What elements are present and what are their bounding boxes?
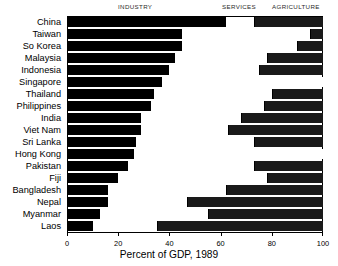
category-label: Laos — [41, 221, 61, 231]
bar-segment-agriculture — [157, 221, 323, 231]
bar-segment-industry — [67, 197, 108, 207]
category-label: India — [41, 113, 61, 123]
bar-row — [67, 65, 323, 75]
bar-row — [67, 41, 323, 51]
segment-divider — [310, 29, 311, 39]
bar-row — [67, 89, 323, 99]
stacked-bar — [67, 65, 323, 75]
category-label: China — [37, 17, 61, 27]
stacked-bar — [67, 209, 323, 219]
stacked-bar — [67, 113, 323, 123]
bar-segment-industry — [67, 113, 141, 123]
bar-segment-services — [136, 137, 254, 147]
bar-segment-services — [162, 77, 323, 87]
bar-segment-industry — [67, 125, 141, 135]
bar-rows — [67, 16, 323, 232]
category-label: Philippines — [17, 101, 61, 111]
category-label: Pakistan — [26, 161, 61, 171]
category-axis-labels: ChinaTaiwanSo KoreaMalaysiaIndonesiaSing… — [0, 16, 65, 232]
bar-segment-industry — [67, 65, 169, 75]
bar-row — [67, 29, 323, 39]
bar-segment-agriculture — [259, 65, 323, 75]
category-label: Thailand — [26, 89, 61, 99]
bar-segment-industry — [67, 173, 118, 183]
bar-segment-services — [134, 149, 323, 159]
bar-segment-agriculture — [297, 41, 323, 51]
bar-segment-industry — [67, 41, 182, 51]
bar-segment-services — [108, 197, 187, 207]
x-axis-tick — [118, 232, 119, 236]
chart-legend: INDUSTRY SERVICES AGRICULTURE — [0, 0, 338, 14]
segment-divider — [264, 101, 265, 111]
gdp-composition-chart: INDUSTRY SERVICES AGRICULTURE ChinaTaiwa… — [0, 0, 338, 266]
bar-segment-services — [182, 41, 297, 51]
bar-segment-industry — [67, 29, 182, 39]
bar-segment-agriculture — [228, 125, 323, 135]
stacked-bar — [67, 77, 323, 87]
bar-row — [67, 161, 323, 171]
bar-segment-industry — [67, 209, 100, 219]
bar-segment-agriculture — [267, 53, 323, 63]
bar-segment-agriculture — [310, 29, 323, 39]
category-label: So Korea — [23, 41, 61, 51]
segment-divider — [241, 113, 242, 123]
bar-row — [67, 113, 323, 123]
stacked-bar — [67, 185, 323, 195]
bar-segment-industry — [67, 53, 175, 63]
segment-divider — [228, 125, 229, 135]
bar-segment-services — [141, 125, 228, 135]
bar-segment-agriculture — [254, 161, 323, 171]
bar-segment-services — [93, 221, 157, 231]
category-label: Fiji — [49, 173, 61, 183]
category-label: Taiwan — [32, 29, 61, 39]
bar-segment-services — [118, 173, 266, 183]
x-axis-tick-label: 40 — [165, 239, 173, 248]
bar-segment-services — [108, 185, 226, 195]
stacked-bar — [67, 41, 323, 51]
bar-row — [67, 53, 323, 63]
segment-divider — [254, 137, 255, 147]
stacked-bar — [67, 101, 323, 111]
category-label: Singapore — [19, 77, 61, 87]
legend-label-services: SERVICES — [222, 3, 256, 10]
segment-divider — [208, 209, 209, 219]
stacked-bar — [67, 89, 323, 99]
bar-segment-agriculture — [226, 185, 323, 195]
stacked-bar — [67, 29, 323, 39]
category-label: Hong Kong — [15, 149, 61, 159]
stacked-bar — [67, 17, 323, 27]
bar-segment-services — [175, 53, 267, 63]
bar-row — [67, 209, 323, 219]
bar-segment-services — [151, 101, 264, 111]
bar-segment-agriculture — [241, 113, 323, 123]
category-label: Nepal — [37, 197, 61, 207]
bar-segment-agriculture — [254, 17, 323, 27]
bar-segment-industry — [67, 101, 151, 111]
segment-divider — [226, 185, 227, 195]
category-label: Viet Nam — [23, 125, 61, 135]
bar-segment-agriculture — [264, 101, 323, 111]
bar-segment-industry — [67, 17, 226, 27]
bar-segment-services — [141, 113, 241, 123]
bar-row — [67, 17, 323, 27]
bar-segment-services — [169, 65, 259, 75]
bar-row — [67, 137, 323, 147]
bar-row — [67, 185, 323, 195]
bar-row — [67, 173, 323, 183]
bar-segment-services — [100, 209, 208, 219]
bar-row — [67, 125, 323, 135]
category-label: Malaysia — [25, 53, 61, 63]
x-axis-tick-label: 0 — [65, 239, 69, 248]
category-label: Indonesia — [21, 65, 61, 75]
x-axis-line — [67, 232, 323, 233]
stacked-bar — [67, 173, 323, 183]
bar-segment-services — [128, 161, 253, 171]
stacked-bar — [67, 221, 323, 231]
bar-segment-industry — [67, 221, 93, 231]
stacked-bar — [67, 161, 323, 171]
stacked-bar — [67, 53, 323, 63]
stacked-bar — [67, 149, 323, 159]
bar-segment-industry — [67, 149, 134, 159]
category-label: Bangladesh — [12, 185, 61, 195]
x-axis-title: Percent of GDP, 1989 — [0, 249, 338, 260]
